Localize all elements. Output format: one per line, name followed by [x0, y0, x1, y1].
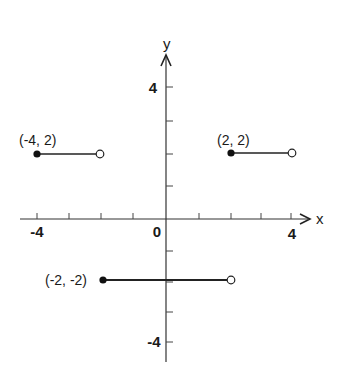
y-tick-label-neg4: -4 [147, 333, 161, 350]
y-axis: 4 -4 y [147, 35, 173, 362]
x-axis: -4 0 4 x [20, 210, 324, 242]
open-point-icon [96, 150, 104, 158]
segment-1: (-4, 2) [19, 132, 104, 158]
step-function-graph: -4 0 4 x 4 -4 y (-4, 2) (-2, -2) [0, 0, 347, 383]
y-tick-label-pos4: 4 [149, 79, 158, 96]
closed-point-icon [227, 149, 234, 156]
closed-point-icon [33, 150, 40, 157]
segment-3: (2, 2) [217, 132, 296, 157]
x-tick-label-pos4: 4 [288, 225, 297, 242]
closed-point-icon [99, 276, 106, 283]
x-ticks [37, 213, 291, 219]
x-axis-label: x [316, 210, 324, 227]
y-axis-label: y [163, 35, 171, 52]
point-label-seg1: (-4, 2) [19, 132, 56, 148]
x-tick-label-neg4: -4 [30, 223, 44, 240]
y-ticks [166, 87, 173, 342]
open-point-icon [288, 149, 296, 157]
segment-2: (-2, -2) [45, 272, 235, 288]
x-tick-label-zero: 0 [153, 223, 161, 240]
point-label-seg3: (2, 2) [217, 132, 250, 148]
open-point-icon [227, 276, 235, 284]
point-label-seg2: (-2, -2) [45, 272, 87, 288]
